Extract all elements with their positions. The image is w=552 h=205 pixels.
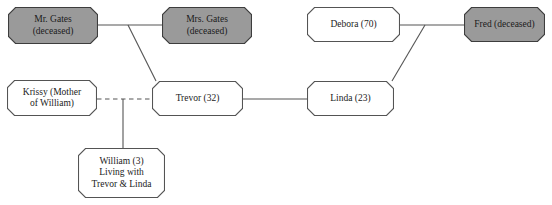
family-tree-diagram: Mr. Gates (deceased)Mrs. Gates (deceased… xyxy=(0,0,552,205)
node-fred[interactable]: Fred (deceased) xyxy=(464,7,545,42)
node-william[interactable]: William (3) Living with Trevor & Linda xyxy=(78,148,165,198)
edge-gates-to-trevor xyxy=(128,25,156,81)
node-label-trevor: Trevor (32) xyxy=(152,81,243,116)
node-debora[interactable]: Debora (70) xyxy=(307,7,400,42)
node-label-krissy: Krissy (Mother of William) xyxy=(7,80,97,116)
node-mrs-gates[interactable]: Mrs. Gates (deceased) xyxy=(162,7,252,44)
node-trevor[interactable]: Trevor (32) xyxy=(152,81,243,116)
node-label-fred: Fred (deceased) xyxy=(464,7,545,42)
node-label-mrs-gates: Mrs. Gates (deceased) xyxy=(162,7,252,44)
node-linda[interactable]: Linda (23) xyxy=(307,81,394,116)
node-label-debora: Debora (70) xyxy=(307,7,400,42)
node-krissy[interactable]: Krissy (Mother of William) xyxy=(7,80,97,116)
node-label-linda: Linda (23) xyxy=(307,81,394,116)
node-label-mr-gates: Mr. Gates (deceased) xyxy=(8,7,98,44)
node-mr-gates[interactable]: Mr. Gates (deceased) xyxy=(8,7,98,44)
node-label-william: William (3) Living with Trevor & Linda xyxy=(78,148,165,198)
